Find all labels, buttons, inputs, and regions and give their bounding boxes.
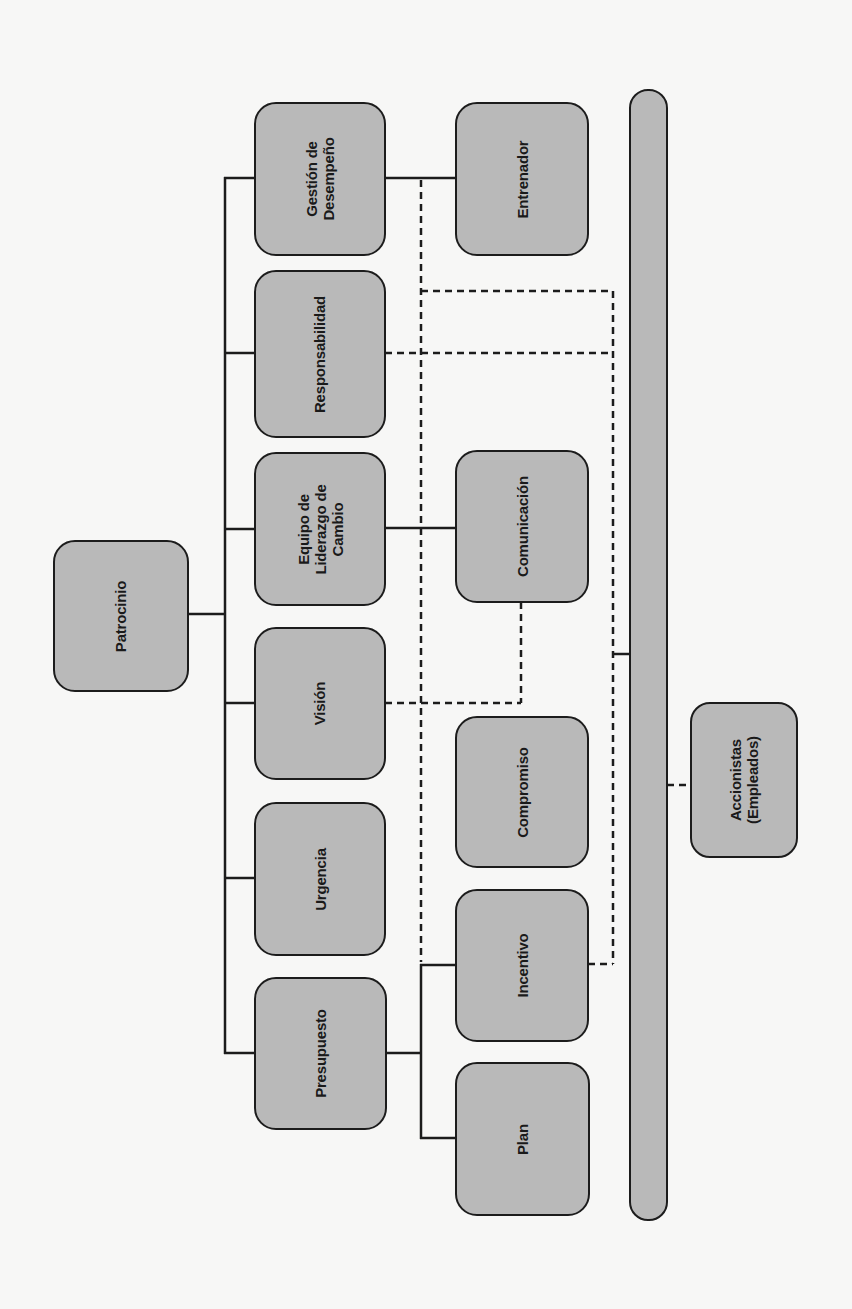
node-label: Gestión de Desempeño [303,137,337,220]
node-urgencia: Urgencia [254,802,386,956]
node-entrenador: Entrenador [455,102,589,256]
node-label: Visión [311,682,328,726]
node-label: Comunicación [513,476,530,577]
node-label: Urgencia [312,848,329,911]
node-label: Entrenador [513,140,530,218]
node-label: Equipo de Liderazgo de Cambio [295,484,346,574]
node-label: Presupuesto [312,1009,329,1098]
node-label: Compromiso [513,747,530,838]
node-responsabilidad: Responsabilidad [254,270,386,438]
node-equipo-de-liderazgo: Equipo de Liderazgo de Cambio [254,452,386,606]
node-incentivo: Incentivo [455,889,589,1042]
node-vision: Visión [254,627,386,780]
node-label: Accionistas (Empleados) [727,736,761,824]
node-gestion-de-desempeno: Gestión de Desempeño [254,102,386,256]
node-presupuesto: Presupuesto [254,977,387,1130]
node-label: Responsabilidad [312,295,329,412]
channel-bar [629,89,668,1221]
node-accionistas-empleados: Accionistas (Empleados) [690,702,798,858]
node-label: Incentivo [513,933,530,997]
node-patrocinio: Patrocinio [53,540,189,692]
node-compromiso: Compromiso [455,716,589,868]
node-label: Patrocinio [112,580,129,651]
node-label: Plan [514,1124,531,1155]
node-plan: Plan [455,1062,590,1216]
diagram-canvas: Patrocinio Gestión de Desempeño Responsa… [0,0,852,1309]
node-comunicacion: Comunicación [455,450,589,603]
